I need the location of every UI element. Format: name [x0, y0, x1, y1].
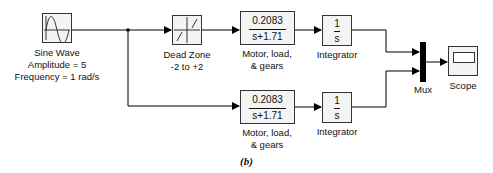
dead-zone-name: Dead Zone: [147, 49, 227, 61]
integrator-block-bottom[interactable]: 1 s: [322, 92, 352, 123]
integrator-numerator: 1: [323, 18, 351, 29]
scope-screen-icon: [453, 52, 475, 63]
tf-denominator: s+1.71: [241, 31, 294, 42]
dead-zone-label: Dead Zone -2 to +2: [147, 49, 227, 73]
motor-label-line1: Motor, load,: [227, 48, 307, 60]
scope-block[interactable]: [448, 46, 478, 76]
sine-wave-icon: [43, 14, 71, 42]
sine-wave-block[interactable]: [42, 13, 72, 43]
dead-zone-icon: [173, 16, 201, 44]
tf-fraction-bar: [249, 29, 286, 30]
dead-zone-block[interactable]: [172, 15, 202, 45]
motor-transfer-fcn-bottom[interactable]: 0.2083 s+1.71: [240, 90, 295, 124]
integrator-top-label: Integrator: [307, 49, 367, 61]
integrator-bar: [334, 108, 340, 109]
integrator-block-top[interactable]: 1 s: [322, 15, 352, 46]
tf-numerator: 0.2083: [241, 94, 294, 105]
integrator-denominator: s: [323, 110, 351, 121]
mux-bar: [420, 42, 426, 82]
tf-numerator: 0.2083: [241, 15, 294, 26]
motor-bottom-label: Motor, load, & gears: [227, 127, 307, 151]
integrator-numerator: 1: [323, 95, 351, 106]
sine-amplitude: Amplitude = 5: [7, 59, 107, 71]
figure-caption: (b): [240, 155, 253, 167]
integrator-denominator: s: [323, 33, 351, 44]
motor-label-line1: Motor, load,: [227, 127, 307, 139]
sine-wave-name: Sine Wave: [7, 47, 107, 59]
sine-wave-label: Sine Wave Amplitude = 5 Frequency = 1 ra…: [7, 47, 107, 83]
motor-transfer-fcn-top[interactable]: 0.2083 s+1.71: [240, 11, 295, 45]
scope-label: Scope: [443, 80, 483, 92]
dead-zone-range: -2 to +2: [147, 61, 227, 73]
tf-denominator: s+1.71: [241, 110, 294, 121]
motor-top-label: Motor, load, & gears: [227, 48, 307, 72]
sine-frequency: Frequency = 1 rad/s: [7, 71, 107, 83]
motor-label-line2: & gears: [227, 60, 307, 72]
tf-fraction-bar: [249, 108, 286, 109]
integrator-bottom-label: Integrator: [307, 126, 367, 138]
integrator-bar: [334, 31, 340, 32]
motor-label-line2: & gears: [227, 139, 307, 151]
mux-label: Mux: [408, 84, 438, 96]
